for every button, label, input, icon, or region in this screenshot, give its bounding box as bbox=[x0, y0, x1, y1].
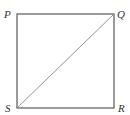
square-diagram: P Q R S bbox=[0, 0, 130, 115]
vertex-label-s: S bbox=[5, 102, 11, 114]
vertex-label-r: R bbox=[117, 102, 125, 114]
diagonal-sq bbox=[17, 14, 114, 108]
vertex-label-q: Q bbox=[117, 8, 125, 20]
vertex-label-p: P bbox=[3, 8, 11, 20]
